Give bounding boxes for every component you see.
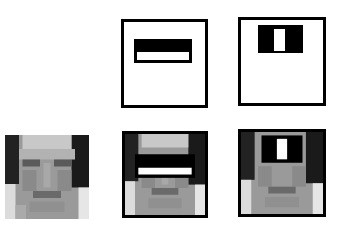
line-feature-light-region [274,29,285,51]
face-edge-feature [122,131,208,218]
edge-feature-kernel [121,19,208,108]
edge-feature-light-region [137,52,189,60]
face-image [241,132,323,214]
face-image [125,134,205,215]
face-original [5,135,89,219]
face-line-feature [238,129,326,217]
face-image [5,135,89,219]
